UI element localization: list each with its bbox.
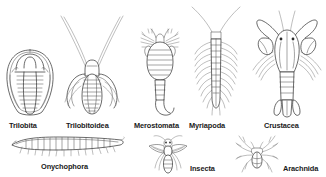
label-myriapoda: Myriapoda [189, 121, 225, 130]
insecta-figure [147, 134, 189, 176]
label-trilobitoidea: Trilobitoidea [66, 121, 109, 130]
crustacea-figure [251, 8, 323, 118]
merostomata-figure [136, 28, 184, 118]
label-insecta: Insecta [190, 164, 215, 173]
label-trilobita: Trilobita [9, 121, 37, 130]
label-merostomata: Merostomata [134, 121, 179, 130]
trilobitoidea-figure [59, 14, 125, 118]
arthropod-illustration-plate: Trilobita Trilobit [0, 0, 326, 177]
myriapoda-figure [190, 6, 242, 118]
onychophora-figure [8, 135, 126, 159]
label-onychophora: Onychophora [41, 162, 88, 171]
label-arachnida: Arachnida [283, 164, 318, 173]
label-crustacea: Crustacea [264, 121, 299, 130]
trilobita-figure [4, 48, 56, 118]
arachnida-figure [234, 134, 280, 176]
